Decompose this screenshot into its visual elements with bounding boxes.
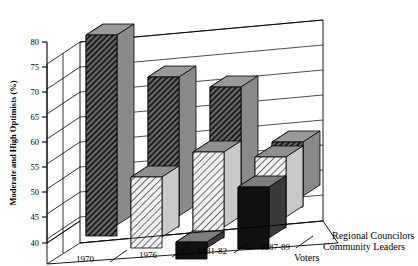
y-axis-wall	[47, 42, 80, 264]
x-tick-label-1981-82: 1981-82	[197, 246, 227, 256]
x-tick-label-1976: 1976	[139, 250, 158, 260]
y-tick-label-50: 50	[31, 187, 40, 197]
bar-1970-regional-councilors	[86, 24, 134, 236]
y-axis: 80 75 70 65 60 55 50 45 40	[31, 37, 48, 248]
x-tick-label-1987-89: 1987-89	[260, 242, 290, 252]
legend-item-voters: Voters	[294, 252, 319, 263]
y-tick-label-40: 40	[31, 238, 40, 248]
legend-item-community-leaders: Community Leaders	[323, 241, 405, 252]
y-axis-title: Moderate and High Optimists (%)	[8, 80, 18, 205]
bar-group-1970	[86, 24, 134, 236]
y-tick-label-80: 80	[31, 37, 40, 47]
y-tick-label-55: 55	[31, 162, 40, 172]
y-tick-label-65: 65	[31, 112, 40, 122]
x-tick-label-1970: 1970	[76, 254, 95, 264]
y-tick-label-75: 75	[31, 62, 40, 72]
bar-chart: 80 75 70 65 60 55 50 45 40 Moderate and …	[0, 0, 418, 266]
y-tick-label-45: 45	[31, 212, 40, 222]
y-tick-label-60: 60	[31, 137, 40, 147]
chart-canvas: 80 75 70 65 60 55 50 45 40 Moderate and …	[0, 0, 418, 266]
legend-item-regional-councilors: Regional Councilors	[332, 230, 415, 241]
y-tick-label-70: 70	[31, 87, 40, 97]
